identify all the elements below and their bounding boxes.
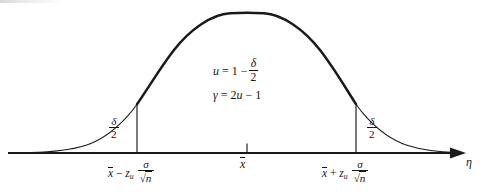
formula-gamma-one: 1 <box>255 88 261 102</box>
formula-u-denominator: 2 <box>249 71 259 84</box>
x-axis <box>8 147 466 158</box>
lower-bound-sqrt: √n <box>138 171 155 185</box>
formula-u-lhs: u <box>213 64 219 78</box>
upper-bound-z-subscript: u <box>344 172 348 181</box>
upper-bound-label: x + zu σ√n <box>322 158 369 185</box>
left-tail-area-label: δ2 <box>108 115 120 141</box>
lower-bound-radicand: n <box>145 171 153 185</box>
formula-u-one: 1 <box>232 64 238 78</box>
left-tail-numerator: δ <box>109 115 119 128</box>
upper-bound-operator: + <box>330 167 337 179</box>
left-tail-fraction: δ2 <box>109 115 119 141</box>
upper-bound-sqrt: √n <box>352 171 369 185</box>
lower-bound-mean: x <box>108 167 113 180</box>
lower-bound-sigma: σ <box>138 158 155 171</box>
formula-u-operator: − <box>241 64 248 78</box>
formula-u-fraction: δ2 <box>249 57 259 84</box>
right-tail-area-label: δ2 <box>366 115 378 141</box>
formula-u: u = 1 −δ2 <box>213 57 259 84</box>
axis-label-eta: η <box>466 156 472 169</box>
formula-gamma-operator: − <box>246 88 253 102</box>
right-tail-numerator: δ <box>367 115 377 128</box>
upper-bound-fraction: σ√n <box>352 158 369 185</box>
upper-bound-mean: x <box>322 167 327 180</box>
lower-bound-operator: − <box>116 167 123 179</box>
right-tail-fraction: δ2 <box>367 115 377 141</box>
formula-gamma-relation: = <box>221 88 228 102</box>
upper-bound-radicand: n <box>359 171 367 185</box>
mean-label: x <box>240 157 245 171</box>
left-tail-denominator: 2 <box>109 128 119 141</box>
formula-u-relation: = <box>222 64 229 78</box>
formula-gamma-variable: u <box>237 88 243 102</box>
mean-label-var: x <box>240 157 245 170</box>
axis-arrowhead <box>450 147 466 158</box>
lower-bound-label: x − zu σ√n <box>108 158 155 185</box>
normal-distribution-figure: u = 1 −δ2 γ = 2u − 1 δ2 δ2 x x − zu σ√n … <box>0 0 487 196</box>
formula-gamma-lhs: γ <box>213 88 218 102</box>
formula-gamma: γ = 2u − 1 <box>213 89 261 102</box>
formula-u-numerator: δ <box>249 57 259 71</box>
right-tail-denominator: 2 <box>367 128 377 141</box>
curve-left-tail <box>30 104 137 152</box>
upper-bound-sigma: σ <box>352 158 369 171</box>
lower-bound-fraction: σ√n <box>138 158 155 185</box>
lower-bound-z-subscript: u <box>130 172 134 181</box>
